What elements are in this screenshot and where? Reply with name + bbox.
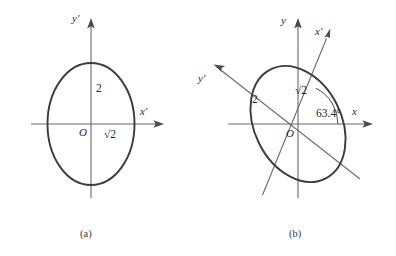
panel-b-rotated-y-axis-arrowhead: [214, 65, 226, 73]
panel-b-rotated-y-axis-label: y′: [197, 72, 206, 84]
panel-b-semi-minor-label: √2: [295, 84, 307, 96]
panel-b-x-axis: [228, 120, 373, 128]
figure-root: y′ x′ O 2 √2 (a): [0, 0, 396, 256]
panel-b-y-axis-label: y: [280, 14, 286, 26]
panel-b: y x x′ y′ O 2 √2 63.4° (b): [0, 0, 396, 256]
panel-b-rotated-x-axis-label: x′: [314, 25, 323, 37]
panel-b-x-axis-label: x: [351, 105, 357, 117]
panel-b-caption: (b): [289, 228, 302, 240]
panel-b-semi-major-label: 2: [252, 93, 258, 105]
panel-b-rotated-y-axis-line: [222, 71, 360, 179]
panel-b-origin-label: O: [286, 127, 294, 139]
panel-b-rotated-x-axis-arrowhead: [324, 28, 331, 38]
panel-b-rotation-angle-label: 63.4°: [316, 107, 341, 119]
